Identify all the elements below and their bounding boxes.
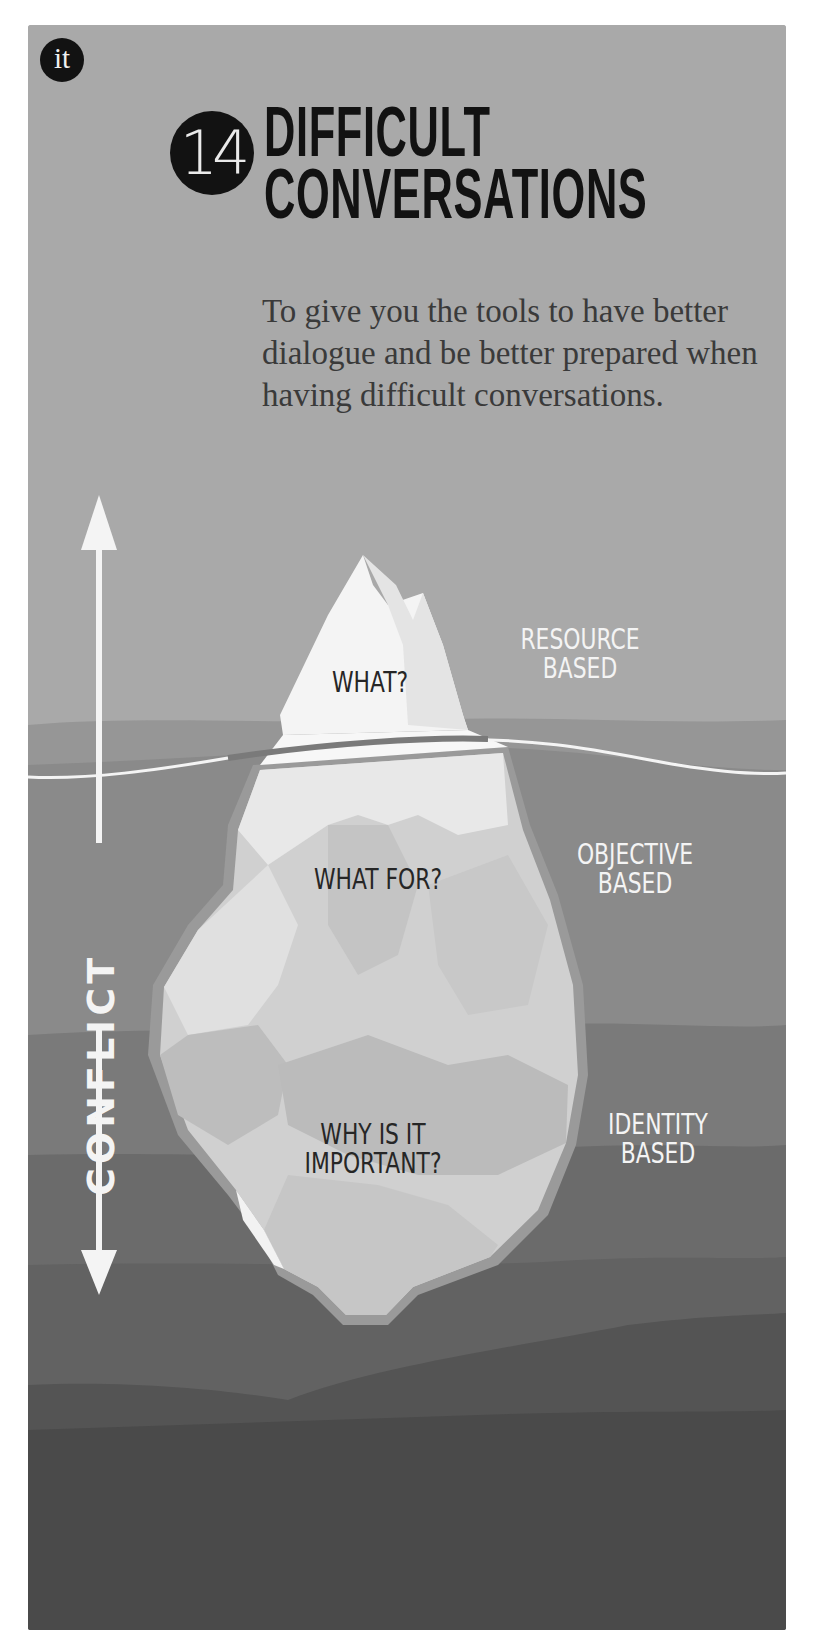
level-label-identity-based: IDENTITY BASED <box>588 1110 728 1169</box>
level-label-resource-based: RESOURCE BASED <box>498 625 662 684</box>
iceberg-label-what-for: WHAT FOR? <box>288 865 467 894</box>
iceberg-label-what: WHAT? <box>315 668 424 697</box>
conflict-axis-label: CONFLICT <box>81 925 121 1225</box>
infographic-card: it 14 DIFFICULT CONVERSATIONS To give yo… <box>28 25 786 1630</box>
page-title: DIFFICULT CONVERSATIONS <box>264 101 586 225</box>
iceberg-label-why-important: WHY IS IT IMPORTANT? <box>272 1120 475 1179</box>
level-label-objective-based: OBJECTIVE BASED <box>557 840 713 899</box>
brand-logo: it <box>40 38 84 82</box>
page-subtitle: To give you the tools to have better dia… <box>262 290 762 416</box>
iceberg-scene <box>28 25 786 1630</box>
section-number-badge: 14 <box>170 111 254 195</box>
